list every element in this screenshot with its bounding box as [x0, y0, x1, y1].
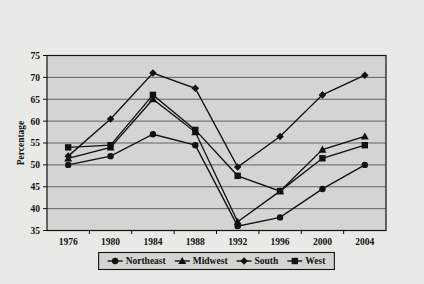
- y-tick-label: 55: [31, 138, 41, 148]
- line-chart: 354045505560657075 197619801984198819921…: [0, 0, 424, 284]
- legend-marker-northeast: [112, 258, 118, 264]
- y-tick-label: 60: [31, 117, 41, 127]
- x-tick-label: 1980: [101, 237, 120, 247]
- legend-marker-west: [292, 258, 298, 264]
- x-tick-label: 1984: [143, 237, 162, 247]
- data-point-northeast: [362, 162, 368, 168]
- y-tick-label: 35: [31, 226, 41, 236]
- data-point-northeast: [65, 162, 71, 168]
- legend-label-northeast: Northeast: [126, 256, 167, 266]
- y-tick-label: 75: [31, 51, 41, 61]
- data-point-west: [277, 188, 283, 194]
- data-point-northeast: [192, 142, 198, 148]
- y-tick-label: 65: [31, 95, 41, 105]
- y-tick-label: 45: [31, 182, 41, 192]
- data-point-west: [192, 127, 198, 133]
- data-point-west: [65, 144, 71, 150]
- legend-label-south: South: [255, 256, 279, 266]
- x-tick-label: 2004: [355, 237, 374, 247]
- legend-label-west: West: [305, 256, 326, 266]
- data-point-northeast: [319, 186, 325, 192]
- data-point-west: [150, 92, 156, 98]
- data-point-west: [362, 142, 368, 148]
- y-tick-label: 70: [31, 73, 41, 83]
- chart-legend: NortheastMidwestSouthWest: [99, 253, 335, 270]
- y-axis-label: Percentage: [16, 121, 26, 166]
- data-point-west: [107, 142, 113, 148]
- x-tick-label: 1988: [186, 237, 205, 247]
- data-point-west: [234, 173, 240, 179]
- x-tick-label: 1976: [59, 237, 78, 247]
- legend-label-midwest: Midwest: [193, 256, 229, 266]
- x-tick-label: 2000: [313, 237, 332, 247]
- data-point-northeast: [107, 153, 113, 159]
- data-point-northeast: [277, 214, 283, 220]
- x-tick-label: 1992: [228, 237, 247, 247]
- y-tick-label: 50: [31, 160, 41, 170]
- data-point-west: [319, 155, 325, 161]
- x-tick-label: 1996: [271, 237, 290, 247]
- data-point-northeast: [150, 131, 156, 137]
- y-tick-label: 40: [31, 204, 41, 214]
